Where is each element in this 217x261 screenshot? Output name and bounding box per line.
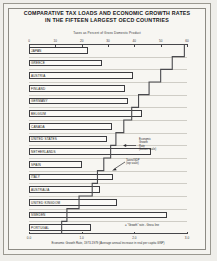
bottom-tick-label: 1.0 — [80, 236, 84, 240]
top-tick-label: 30 — [106, 39, 109, 43]
taxes-annotation-arrow-icon — [112, 161, 126, 171]
chart-title-line-2: IN THE FIFTEEN LARGEST OECD COUNTRIES — [4, 17, 210, 24]
growth-annotation-arrow-icon — [123, 143, 137, 148]
top-tick-label: 10 — [54, 39, 57, 43]
top-tick — [187, 44, 188, 47]
top-tick-label: 60 — [185, 39, 188, 43]
bottom-tick-label: 0.0 — [27, 236, 31, 240]
bottom-tick — [187, 232, 188, 235]
plot-area: 0102030405060 0.01.02.03.0 JAPANGREECEAU… — [29, 44, 187, 234]
bottom-tick-label: 3.0 — [185, 236, 189, 240]
top-tick-label: 40 — [133, 39, 136, 43]
chart-subtitle: Taxes as Percent of Gross Domestic Produ… — [4, 31, 210, 35]
legend: = "Growth" rate - Gross line — [125, 223, 159, 227]
top-tick-label: 50 — [159, 39, 162, 43]
chart-title-line-1: COMPARATIVE TAX LOADS AND ECONOMIC GROWT… — [4, 10, 210, 17]
growth-rate-polyline — [62, 44, 185, 234]
chart-title: COMPARATIVE TAX LOADS AND ECONOMIC GROWT… — [4, 10, 210, 24]
taxes-gdp-annotation: Taxes/GDP (top scale) — [126, 159, 140, 166]
legend-label: = "Growth" rate - Gross line — [125, 223, 159, 227]
growth-rate-step-line — [29, 44, 187, 234]
top-tick-label: 0 — [28, 39, 30, 43]
top-tick-label: 20 — [80, 39, 83, 43]
bottom-tick-label: 2.0 — [132, 236, 136, 240]
bottom-axis-label: Economic Growth Rate, 1973-1979 (Average… — [29, 241, 187, 245]
growth-rate-annotation: Economic Growth Rate (bottom scale) — [139, 138, 156, 151]
chart-frame: COMPARATIVE TAX LOADS AND ECONOMIC GROWT… — [3, 3, 211, 255]
